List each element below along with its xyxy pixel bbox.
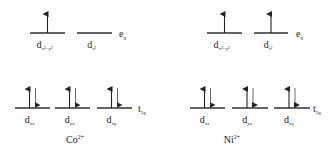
orbital-label: dx²−y² bbox=[214, 39, 230, 51]
orbital-label-sub: x²−y² bbox=[219, 46, 230, 51]
orbital-label: dxz bbox=[200, 114, 211, 126]
panel-ni: dx²−y²dz²egdxzdyzdxyt2gNi2+ bbox=[190, 14, 321, 145]
t2g-label-sub: 2g bbox=[141, 110, 147, 115]
eg-level: dx²−y²dz²eg bbox=[30, 14, 126, 51]
orbital-eg-0: dx²−y² bbox=[30, 14, 65, 51]
eg-label-sub: g bbox=[123, 35, 126, 40]
orbital-label-sub: xz bbox=[30, 121, 36, 126]
ion-label-symbol: Ni bbox=[224, 134, 234, 145]
eg-label-sub: g bbox=[300, 35, 303, 40]
orbital-label-sub: xy bbox=[112, 121, 118, 126]
orbital-t2g-2: dxy bbox=[274, 88, 310, 126]
orbital-label: dyz bbox=[65, 114, 76, 126]
eg-label: eg bbox=[296, 28, 303, 40]
orbital-label-sub: z² bbox=[269, 46, 273, 51]
orbital-label-sub: xz bbox=[205, 121, 211, 126]
orbital-label-sub: z² bbox=[92, 46, 96, 51]
orbital-eg-0: dx²−y² bbox=[207, 14, 242, 51]
orbital-eg-1: dz² bbox=[254, 14, 288, 51]
orbital-label: dxz bbox=[25, 114, 36, 126]
orbital-label: dz² bbox=[87, 39, 96, 51]
ion-label: Co2+ bbox=[66, 134, 85, 145]
orbital-t2g-0: dxz bbox=[190, 88, 225, 126]
orbital-label: dx²−y² bbox=[37, 39, 53, 51]
orbital-t2g-1: dyz bbox=[55, 88, 90, 126]
orbital-t2g-0: dxz bbox=[15, 88, 50, 126]
orbital-eg-1: dz² bbox=[77, 33, 112, 51]
eg-level: dx²−y²dz²eg bbox=[207, 14, 303, 51]
orbital-t2g-2: dxy bbox=[97, 88, 132, 126]
eg-label: eg bbox=[119, 28, 126, 40]
orbital-label-sub: yz bbox=[247, 121, 253, 126]
t2g-label: t2g bbox=[313, 103, 321, 115]
orbital-label-sub: x²−y² bbox=[42, 46, 53, 51]
t2g-level: dxzdyzdxyt2g bbox=[15, 88, 146, 126]
t2g-label-sub: 2g bbox=[316, 110, 322, 115]
ion-label-charge: 2+ bbox=[78, 134, 85, 140]
orbital-label: dxy bbox=[284, 114, 295, 126]
ion-label-charge: 2+ bbox=[234, 134, 241, 140]
t2g-label: t2g bbox=[138, 103, 146, 115]
orbital-t2g-1: dyz bbox=[232, 88, 268, 126]
orbital-label: dyz bbox=[242, 114, 253, 126]
ion-label-symbol: Co bbox=[66, 134, 78, 145]
orbital-label-sub: yz bbox=[70, 121, 76, 126]
orbital-label-sub: xy bbox=[289, 121, 295, 126]
t2g-level: dxzdyzdxyt2g bbox=[190, 88, 321, 126]
panel-co: dx²−y²dz²egdxzdyzdxyt2gCo2+ bbox=[15, 14, 146, 145]
ion-label: Ni2+ bbox=[224, 134, 241, 145]
orbital-label: dxy bbox=[107, 114, 118, 126]
crystal-field-diagram: dx²−y²dz²egdxzdyzdxyt2gCo2+dx²−y²dz²egdx… bbox=[0, 0, 334, 153]
orbital-label: dz² bbox=[264, 39, 273, 51]
